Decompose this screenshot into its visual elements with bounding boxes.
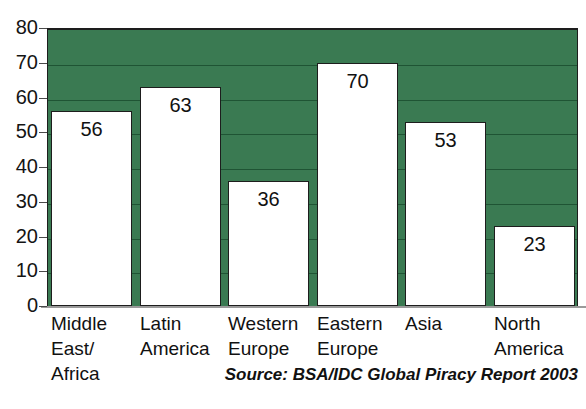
bar-value-label: 23 (495, 233, 574, 255)
bar[interactable]: 53 (405, 122, 486, 306)
plot-wrapper: 566336705323 (47, 28, 578, 306)
bar-value-label: 63 (141, 94, 220, 116)
x-axis-category-label: North America (494, 311, 583, 361)
y-axis-label: 70 (0, 52, 38, 72)
y-axis-tick (39, 63, 47, 64)
y-axis-tick (39, 237, 47, 238)
bar[interactable]: 63 (140, 87, 221, 306)
y-axis-tick (39, 28, 47, 29)
y-axis-label: 80 (0, 17, 38, 37)
y-axis-tick (39, 132, 47, 133)
y-axis-label: 30 (0, 191, 38, 211)
bar-value-label: 36 (229, 188, 308, 210)
bar[interactable]: 36 (228, 181, 309, 306)
y-axis-label: 40 (0, 156, 38, 176)
chart-title-clipped (0, 0, 586, 11)
y-axis-label: 10 (0, 260, 38, 280)
y-axis-label: 50 (0, 121, 38, 141)
bar-value-label: 53 (406, 129, 485, 151)
x-axis-category-label: Asia (405, 311, 494, 336)
y-axis-label: 20 (0, 226, 38, 246)
x-axis-category-label: Eastern Europe (317, 311, 406, 361)
source-note: Source: BSA/IDC Global Piracy Report 200… (225, 365, 578, 385)
y-axis-label: 0 (0, 295, 38, 315)
y-axis-tick (39, 271, 47, 272)
x-axis-category-label: Middle East/ Africa (51, 311, 140, 386)
x-axis-category-label: Western Europe (228, 311, 317, 361)
y-axis-labels: 01020304050607080 (0, 0, 38, 409)
bar[interactable]: 23 (494, 226, 575, 306)
bar-value-label: 56 (52, 118, 131, 140)
gridline (48, 65, 577, 66)
y-axis-label: 60 (0, 87, 38, 107)
x-axis-category-label: Latin America (140, 311, 229, 361)
bar[interactable]: 56 (51, 111, 132, 306)
y-axis-tick (39, 202, 47, 203)
bar-value-label: 70 (318, 70, 397, 92)
bar[interactable]: 70 (317, 63, 398, 306)
plot-area: 566336705323 (47, 28, 578, 306)
y-axis-tick (39, 306, 47, 307)
x-axis-line (41, 306, 586, 308)
y-axis-tick (39, 98, 47, 99)
y-axis-tick (39, 167, 47, 168)
gridline (48, 100, 577, 101)
